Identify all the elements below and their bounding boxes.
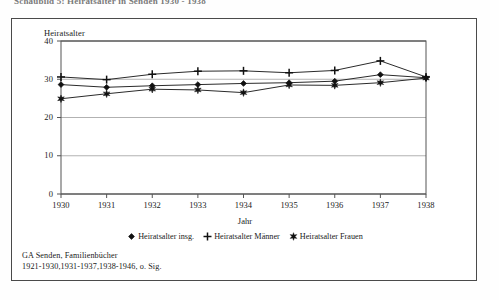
- x-tick-label: 1932: [132, 200, 172, 210]
- marker-plus: [57, 73, 65, 81]
- chart-area: Heiratsalter 010203040 19301931193219331…: [12, 19, 478, 282]
- marker-plus: [285, 69, 293, 77]
- caption-line-1: GA Senden, Familienbücher: [22, 251, 162, 262]
- legend-entry-0[interactable]: Heiratsalter insg.: [127, 232, 194, 241]
- legend-entry-2[interactable]: Heiratsalter Frauen: [289, 232, 363, 241]
- x-tick-label: 1935: [269, 200, 309, 210]
- y-tick-label: 40: [31, 36, 53, 46]
- x-tick-label: 1938: [406, 200, 446, 210]
- y-tick-label: 0: [31, 189, 53, 199]
- marker-plus: [103, 76, 111, 84]
- x-tick-label: 1933: [178, 200, 218, 210]
- marker-plus: [148, 70, 156, 78]
- legend-label: Heiratsalter insg.: [138, 232, 194, 241]
- x-tick-label: 1930: [41, 200, 81, 210]
- x-tick-label: 1936: [315, 200, 355, 210]
- marker-plus: [240, 67, 248, 75]
- marker-star: [290, 233, 297, 241]
- legend-label: Heiratsalter Frauen: [300, 232, 363, 241]
- chart-legend: Heiratsalter insg.Heiratsalter MännerHei…: [12, 232, 478, 241]
- marker-diamond: [129, 234, 135, 240]
- figure-root: Schaubild 5: Heiratsalter in Senden 1930…: [0, 0, 499, 300]
- marker-plus: [331, 66, 339, 74]
- legend-entry-1[interactable]: Heiratsalter Männer: [203, 232, 280, 241]
- x-tick-label: 1937: [360, 200, 400, 210]
- marker-plus: [194, 67, 202, 75]
- caption-line-2: 1921-1930,1931-1937,1938-1946, o. Sig.: [22, 262, 162, 273]
- plot-svg: [12, 19, 478, 282]
- star-icon: [289, 232, 298, 241]
- x-tick-label: 1931: [87, 200, 127, 210]
- figure-frame: Heiratsalter 010203040 19301931193219331…: [11, 18, 477, 281]
- plus-icon: [203, 232, 212, 241]
- x-axis-title: Jahr: [12, 216, 478, 226]
- figure-top-heading: Schaubild 5: Heiratsalter in Senden 1930…: [14, 0, 314, 6]
- diamond-icon: [127, 232, 136, 241]
- y-tick-label: 10: [31, 150, 53, 160]
- marker-diamond: [58, 82, 64, 88]
- marker-diamond: [377, 72, 383, 78]
- y-tick-label: 20: [31, 112, 53, 122]
- x-tick-label: 1934: [224, 200, 264, 210]
- marker-plus: [204, 233, 212, 241]
- legend-label: Heiratsalter Männer: [214, 232, 280, 241]
- marker-plus: [376, 57, 384, 65]
- y-tick-label: 30: [31, 74, 53, 84]
- marker-diamond: [241, 81, 247, 87]
- figure-caption: GA Senden, Familienbücher1921-1930,1931-…: [22, 251, 162, 272]
